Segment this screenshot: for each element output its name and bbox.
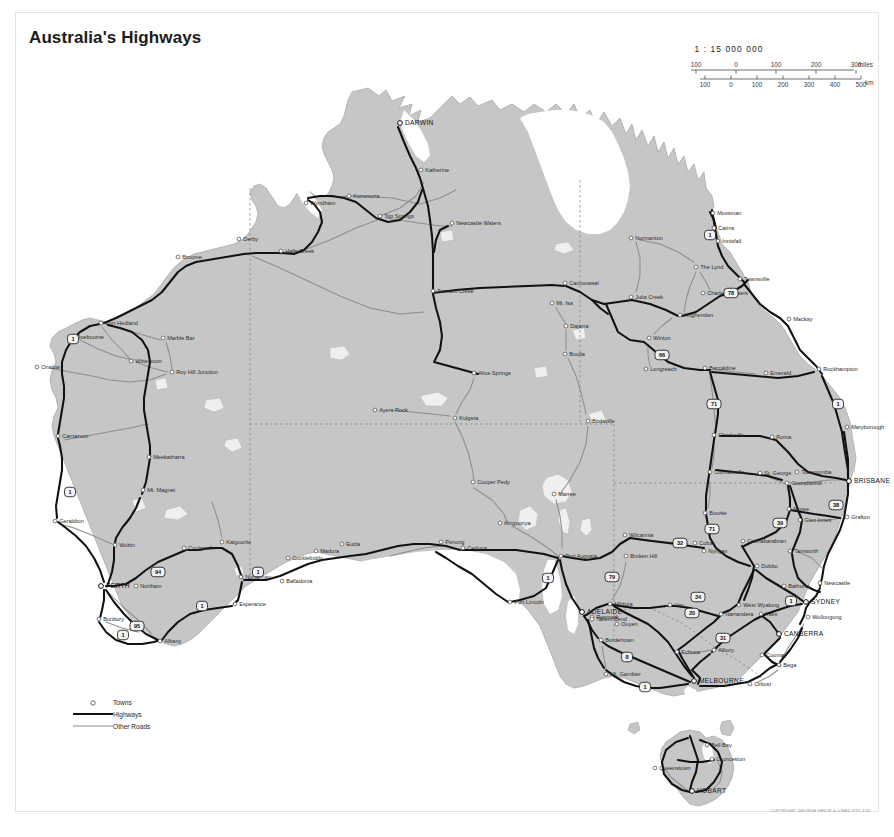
town-marker: Grafton [845, 514, 870, 520]
town-label: Wyndham [310, 200, 335, 206]
town-label: Wubin [119, 542, 135, 548]
town-marker: Tailem Bend [590, 616, 627, 622]
town-marker: Onslow [35, 364, 61, 370]
town-label: Boulia [569, 351, 585, 357]
town-marker: Halls Creek [279, 248, 314, 254]
town-dot [785, 481, 789, 485]
route-shield: 1 [65, 487, 76, 497]
town-label: Onslow [41, 364, 61, 370]
scale-tick-label: 0 [729, 81, 733, 88]
capital-dot [777, 632, 782, 637]
town-label: Mt. Isa [556, 300, 574, 306]
route-shield-number: 31 [720, 635, 726, 641]
town-label: Innisfail [722, 238, 741, 244]
town-dot [279, 249, 283, 253]
town-label: Grafton [851, 514, 870, 520]
legend-highways-label: Highways [113, 711, 142, 719]
legend-towns-label: Towns [113, 699, 132, 706]
capital-dot [692, 679, 697, 684]
capital-city-marker: CANBERRA [777, 630, 824, 637]
town-dot [782, 584, 786, 588]
town-marker: Ayers Rock [373, 407, 408, 413]
town-label: Tennant Creek [437, 288, 474, 294]
route-shield: 1 [705, 230, 716, 240]
route-shield-number: 8 [625, 654, 628, 660]
town-label: Port Hedland [105, 320, 138, 326]
route-shield-number: 1 [546, 575, 549, 581]
town-label: Birdsville [592, 418, 614, 424]
town-label: Tailem Bend [596, 616, 627, 622]
hwy-southwest [100, 590, 104, 618]
town-label: Katherine [425, 167, 449, 173]
route-shield: 1 [68, 334, 79, 344]
town-label: Wilcannia [629, 532, 654, 538]
route-shield: 95 [130, 621, 144, 631]
town-label: Launceston [716, 756, 745, 762]
route-shield: 1 [786, 596, 797, 606]
route-shield: 71 [707, 399, 721, 409]
route-shield-number: 71 [709, 526, 715, 532]
town-dot [716, 239, 720, 243]
town-dot [629, 295, 633, 299]
town-dot [590, 617, 594, 621]
town-dot [176, 255, 180, 259]
town-dot [304, 201, 308, 205]
route-shield-number: 1 [708, 232, 711, 238]
town-label: Mildura [614, 601, 633, 607]
town-dot [239, 575, 243, 579]
town-dot [711, 211, 715, 215]
town-dot [624, 554, 628, 558]
map-page: Australia's Highways [0, 0, 894, 837]
town-dot [755, 564, 759, 568]
scale-tick-label: 0 [734, 61, 738, 68]
town-dot [818, 581, 822, 585]
town-dot [758, 471, 762, 475]
town-label: Marree [558, 491, 576, 497]
capital-city-marker: ADELAIDE [580, 608, 623, 615]
town-dot [694, 265, 698, 269]
route-shield-number: 20 [689, 610, 695, 616]
town-dot [161, 336, 165, 340]
town-label: St. George [764, 470, 791, 476]
town-marker: Newcastle [818, 580, 850, 586]
nt-claypan [440, 230, 454, 242]
town-dot [134, 584, 138, 588]
scale-tick-label: 300 [804, 81, 815, 88]
town-dot [647, 336, 651, 340]
town-label: Bunbury [103, 616, 124, 622]
bass-strait [600, 700, 820, 722]
route-shield: 8 [622, 652, 633, 662]
town-marker: West Wyalong [737, 602, 779, 608]
town-label: Halls Creek [285, 248, 314, 254]
town-label: Balladonia [286, 578, 313, 584]
town-dot [705, 743, 709, 747]
town-dot [564, 324, 568, 328]
town-label: Yass [765, 611, 777, 617]
town-marker: Julia Creek [629, 294, 663, 300]
route-shield: 1 [833, 399, 844, 409]
town-dot [453, 416, 457, 420]
town-dot [347, 194, 351, 198]
town-label: Echuca [681, 649, 701, 655]
town-marker: Newcastle Waters [450, 220, 501, 226]
town-label: Port Lincoln [514, 599, 544, 605]
town-label: Kununurra [353, 193, 380, 199]
scale-ratio-label: 1 : 15 000 000 [695, 44, 764, 54]
town-dot [158, 639, 162, 643]
town-dot [770, 435, 774, 439]
route-shield-number: 1 [836, 401, 839, 407]
landmass-layer [50, 88, 856, 722]
town-marker: Cunnamulla [708, 469, 745, 475]
town-label: Hughenden [684, 312, 713, 318]
route-shield: 31 [716, 633, 730, 643]
town-dot [498, 521, 502, 525]
town-dot [373, 408, 377, 412]
town-label: Julia Creek [635, 294, 663, 300]
town-dot [693, 541, 697, 545]
capital-city-label: PERTH [106, 582, 130, 589]
town-dot [461, 546, 465, 550]
town-label: Glen Innes [804, 517, 831, 523]
town-marker: Bordertown [599, 637, 634, 643]
town-marker: Mossman [711, 210, 741, 216]
town-dot [710, 757, 714, 761]
